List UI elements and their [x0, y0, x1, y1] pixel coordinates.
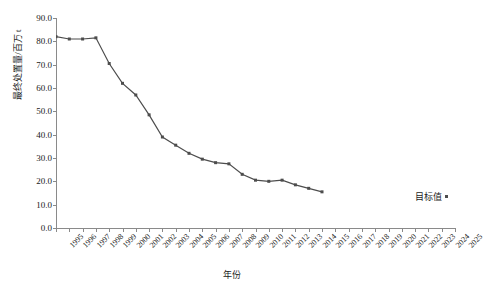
y-tick-label: 70.0 — [16, 60, 52, 70]
data-point-marker — [68, 38, 71, 41]
data-point-marker — [281, 179, 284, 182]
y-tick-label: 40.0 — [16, 130, 52, 140]
y-tick-mark — [53, 135, 57, 136]
data-point-marker — [201, 158, 204, 161]
plot-area — [56, 18, 455, 228]
y-tick-mark — [53, 41, 57, 42]
y-tick-mark — [53, 65, 57, 66]
x-axis-title: 年份 — [0, 268, 463, 281]
data-point-marker — [227, 162, 230, 165]
data-point-marker — [307, 187, 310, 190]
x-tick-label: 2025 — [467, 232, 484, 250]
data-point-marker — [321, 190, 324, 193]
data-point-marker — [148, 113, 151, 116]
data-point-marker — [254, 179, 257, 182]
y-tick-label: 30.0 — [16, 153, 52, 163]
series-line — [56, 37, 322, 192]
data-point-marker — [267, 180, 270, 183]
y-tick-label: 0.0 — [16, 223, 52, 233]
data-point-marker — [94, 36, 97, 39]
data-point-marker — [188, 152, 191, 155]
legend-square-marker — [445, 195, 448, 198]
y-axis-tick-labels: 90.080.070.060.050.040.030.020.010.00.0 — [12, 0, 52, 283]
data-point-marker — [174, 144, 177, 147]
y-tick-label: 10.0 — [16, 200, 52, 210]
y-tick-label: 50.0 — [16, 106, 52, 116]
legend: 目标值 — [415, 190, 448, 203]
y-tick-label: 80.0 — [16, 36, 52, 46]
data-point-marker — [241, 173, 244, 176]
y-tick-label: 60.0 — [16, 83, 52, 93]
data-point-marker — [161, 136, 164, 139]
y-tick-mark — [53, 181, 57, 182]
series-line-target-value — [56, 18, 455, 228]
data-point-marker — [108, 62, 111, 65]
data-point-marker — [134, 94, 137, 97]
y-tick-mark — [53, 18, 57, 19]
data-point-marker — [214, 161, 217, 164]
y-tick-mark — [53, 205, 57, 206]
data-point-marker — [81, 38, 84, 41]
legend-label: 目标值 — [415, 190, 442, 203]
y-tick-mark — [53, 88, 57, 89]
data-point-marker — [294, 183, 297, 186]
data-point-marker — [121, 82, 124, 85]
y-tick-label: 90.0 — [16, 13, 52, 23]
y-tick-mark — [53, 158, 57, 159]
y-tick-mark — [53, 111, 57, 112]
data-point-marker — [56, 35, 58, 38]
y-tick-label: 20.0 — [16, 176, 52, 186]
